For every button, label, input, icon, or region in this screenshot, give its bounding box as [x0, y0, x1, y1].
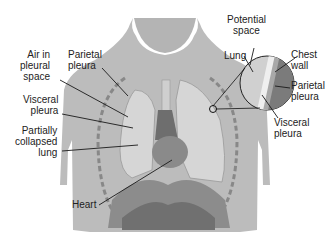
label-air-in-pleural-space: Air in pleural space	[20, 49, 50, 82]
label-visceral-pleura-left: Visceral pleura	[23, 94, 58, 116]
trachea	[162, 80, 170, 115]
label-parietal-pleura-right: Parietal pleura	[291, 80, 325, 102]
label-chest-wall: Chest wall	[291, 49, 317, 71]
label-lung: Lung	[224, 50, 246, 61]
label-partially-collapsed-lung: Partially collapsed lung	[15, 125, 57, 158]
label-potential-space: Potential space	[227, 14, 266, 36]
label-visceral-pleura-right: Visceral pleura	[274, 117, 309, 139]
label-parietal-pleura-left: Parietal pleura	[68, 49, 102, 71]
heart-shape	[152, 136, 188, 168]
label-heart: Heart	[72, 199, 96, 210]
